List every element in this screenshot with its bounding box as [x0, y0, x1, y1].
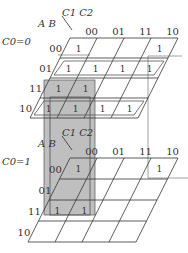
cell-value: 1 — [75, 164, 81, 174]
column-label: 01 — [112, 26, 125, 37]
column-label: 10 — [166, 26, 179, 37]
row-label: 11 — [29, 83, 42, 94]
row-variable-label: A B — [37, 138, 56, 149]
karnaugh-map-diagram: 1111111111110001111000011110C1 C2A BC0=0… — [0, 0, 188, 253]
column-label: 10 — [166, 146, 179, 157]
row-label: 10 — [19, 103, 32, 114]
group-outline-corner — [148, 56, 188, 178]
cell-value: 1 — [147, 64, 153, 74]
cell-value: 1 — [120, 64, 126, 74]
column-label: 00 — [85, 146, 98, 157]
row-label: 01 — [39, 185, 52, 196]
column-label: 11 — [139, 146, 152, 157]
cell-value: 1 — [76, 44, 82, 54]
cell-value: 1 — [56, 84, 62, 94]
layer-label: C0=0 — [2, 36, 31, 47]
cell-value: 1 — [100, 104, 106, 114]
cell-value: 1 — [54, 206, 60, 216]
row-label: 11 — [28, 206, 41, 217]
cell-value: 1 — [156, 164, 162, 174]
row-label: 10 — [18, 227, 31, 238]
column-label: 11 — [139, 26, 152, 37]
row-label: 01 — [39, 63, 52, 74]
cell-value: 1 — [83, 84, 89, 94]
cell-value: 1 — [127, 104, 133, 114]
cell-value: 1 — [66, 64, 72, 74]
cell-value: 1 — [157, 44, 163, 54]
column-label: 00 — [85, 26, 98, 37]
cell-value: 1 — [46, 104, 52, 114]
row-variable-label: A B — [37, 18, 56, 29]
row-label: 00 — [49, 43, 62, 54]
cell-value: 1 — [73, 104, 79, 114]
layer-label: C0=1 — [2, 156, 31, 167]
column-variable-label: C1 C2 — [62, 127, 93, 138]
column-variable-label: C1 C2 — [62, 7, 93, 18]
column-label: 01 — [112, 146, 125, 157]
cell-value: 1 — [93, 64, 99, 74]
cell-value: 1 — [81, 206, 87, 216]
row-label: 00 — [49, 164, 62, 175]
